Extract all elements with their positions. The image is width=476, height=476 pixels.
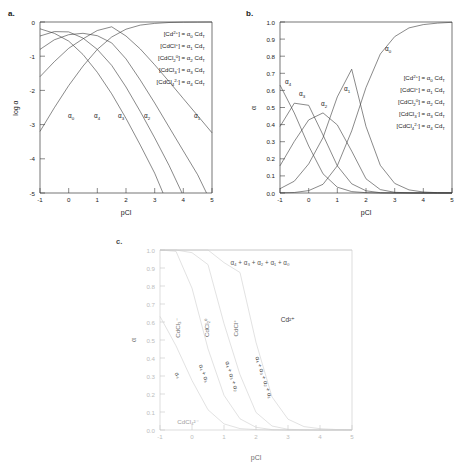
- panel-c-ytick-10: 1.0: [146, 247, 155, 254]
- panel-c-yaxis-label: α: [130, 338, 137, 342]
- panel-c-ytick-2: 0.2: [146, 391, 155, 398]
- panel-b-xtick-6: 5: [450, 196, 454, 203]
- panel-a-x-ticks: -1 0 1 2 3 4 5: [37, 188, 214, 203]
- panel-b-ytick-2: 0.2: [266, 155, 275, 162]
- panel-b-ytick-4: 0.4: [266, 121, 275, 128]
- panel-a-log-alpha-diagram: a. -1 0 1 2 3 4 5: [0, 0, 238, 238]
- panel-c-cumlabel-1: α₄ + α₃: [198, 364, 210, 384]
- panel-c-xtick-4: 3: [286, 433, 290, 440]
- panel-b-ytick-5: 0.5: [266, 104, 275, 111]
- panel-a-plot: a. -1 0 1 2 3 4 5: [0, 0, 238, 238]
- panel-a-xtick-1: 0: [67, 196, 71, 203]
- panel-b-xtick-4: 3: [393, 196, 397, 203]
- panel-c-region-label-cdcl1: CdCl⁺: [232, 320, 239, 337]
- panel-b-legend-row-1: [CdCl+] = α1 CdT: [400, 86, 445, 95]
- panel-b-ytick-9: 0.9: [266, 36, 275, 43]
- panel-b-xtick-5: 4: [422, 196, 426, 203]
- panel-c-letter: c.: [116, 237, 122, 246]
- panel-b-ytick-1: 0.1: [266, 172, 275, 179]
- panel-c-curve-alpha4: [160, 316, 352, 430]
- panel-a-legend-row-3: [CdCl3-] = α3 CdT: [159, 66, 205, 75]
- panel-b-legend-row-2: [CdCl20] = α2 CdT: [398, 98, 445, 107]
- panel-c-xtick-5: 4: [318, 433, 322, 440]
- panel-c-curve-sum-4321: [160, 250, 352, 430]
- panel-a-label-alpha4: α4: [94, 112, 101, 121]
- panel-c-axes: [160, 250, 352, 430]
- panel-a-legend-row-1: [CdCl+] = α1 CdT: [160, 42, 205, 51]
- panel-b-xtick-2: 1: [336, 196, 340, 203]
- panel-b-label-alpha4: α4: [285, 78, 292, 87]
- panel-b-ytick-10: 1.0: [266, 19, 275, 26]
- panel-b-xtick-3: 2: [364, 196, 368, 203]
- panel-b-label-alpha0: α0: [385, 45, 392, 54]
- panel-b-y-ticks: 0.0 0.1 0.2 0.3 0.4 0.5 0.6 0.7 0.8 0.9 …: [266, 19, 285, 197]
- panel-c-region-label-cdcl2: CdCl₂⁰: [203, 318, 210, 337]
- panel-a-curve-labels: α0 α4 α3 α2 α1: [68, 112, 201, 121]
- panel-c-xtick-1: 0: [190, 433, 194, 440]
- panel-b-ytick-8: 0.8: [266, 53, 275, 60]
- panel-b-label-alpha2: α2: [321, 100, 328, 109]
- panel-c-xtick-0: -1: [157, 433, 163, 440]
- panel-a-xtick-5: 4: [182, 196, 186, 203]
- panel-a-xaxis-label: pCl: [121, 209, 132, 217]
- panel-c-top-sum-label: α₄ + α₃ + α₂ + α₁ + α₀: [230, 259, 290, 266]
- panel-a-label-alpha1: α1: [194, 112, 201, 121]
- panel-a-xtick-2: 1: [96, 196, 100, 203]
- panel-b-xtick-0: -1: [277, 196, 283, 203]
- panel-b-curve-labels: α4 α3 α2 α1 α0: [285, 45, 392, 109]
- panel-a-ytick-5: -5: [29, 190, 35, 197]
- panel-a-legend-row-2: [CdCl20] = α2 CdT: [158, 54, 205, 63]
- panel-c-curve-sum-432: [160, 250, 352, 430]
- panel-a-legend-row-0: [Cd2+] = α0 CdT: [164, 30, 206, 39]
- panel-b-curves: [280, 22, 452, 193]
- panel-b-letter: b.: [246, 9, 253, 18]
- panel-c-plot: c. -1 0 1 2 3 4 5: [110, 232, 366, 476]
- panel-b-ytick-7: 0.7: [266, 70, 275, 77]
- panel-c-xtick-6: 5: [350, 433, 354, 440]
- panel-a-ytick-1: -1: [29, 53, 35, 60]
- panel-c-xtick-2: 1: [222, 433, 226, 440]
- panel-c-region-label-cd2plus: Cd²⁺: [281, 316, 296, 323]
- panel-b-x-ticks: -1 0 1 2 3 4 5: [277, 188, 454, 203]
- panel-c-y-ticks: 0.0 0.1 0.2 0.3 0.4 0.5 0.6 0.7 0.8 0.9 …: [146, 247, 165, 434]
- panel-b-ytick-6: 0.6: [266, 87, 275, 94]
- panel-c-ytick-3: 0.3: [146, 373, 155, 380]
- panel-a-label-alpha3: α3: [118, 112, 125, 121]
- panel-a-y-ticks: 0 -1 -2 -3 -4 -5: [29, 19, 45, 197]
- panel-c-ytick-4: 0.4: [146, 355, 155, 362]
- panel-c-cumulative-alpha-diagram: c. -1 0 1 2 3 4 5: [110, 232, 366, 476]
- panel-a-ytick-2: -2: [29, 87, 35, 94]
- panel-a-xtick-6: 5: [210, 196, 214, 203]
- panel-c-cumlabel-2: α₄ + α₃ + α₂: [224, 361, 240, 393]
- panel-a-ytick-3: -3: [29, 121, 35, 128]
- panel-b-ytick-0: 0.0: [266, 190, 275, 197]
- panel-c-ytick-9: 0.9: [146, 265, 155, 272]
- panel-a-label-alpha0: α0: [68, 112, 75, 121]
- panel-c-ytick-5: 0.5: [146, 337, 155, 344]
- panel-c-cumlabel-3: α₄ + α₃ + α₂ + α₁: [254, 356, 273, 399]
- panel-b-legend: [Cd2+] = α0 CdT [CdCl+] = α1 CdT [CdCl20…: [397, 74, 446, 131]
- panel-a-curve-alpha0: [40, 22, 212, 131]
- panel-c-ytick-8: 0.8: [146, 283, 155, 290]
- panel-c-curve-sum-43: [160, 250, 352, 430]
- panel-a-yaxis-label: log α: [12, 100, 20, 115]
- panel-b-label-alpha1: α1: [344, 85, 351, 94]
- panel-b-ytick-3: 0.3: [266, 138, 275, 145]
- panel-b-label-alpha3: α3: [299, 90, 306, 99]
- panel-c-cumlabel-0: α₄: [174, 371, 182, 380]
- panel-c-region-label-cdcl4: CdCl₄²⁻: [177, 418, 198, 425]
- panel-c-ytick-6: 0.6: [146, 319, 155, 326]
- panel-b-xtick-1: 0: [307, 196, 311, 203]
- panel-a-xtick-3: 2: [124, 196, 128, 203]
- panel-a-ytick-0: 0: [32, 19, 36, 26]
- panel-c-xtick-3: 2: [254, 433, 258, 440]
- panel-a-letter: a.: [8, 9, 15, 18]
- panel-a-legend-row-4: [CdCl42-] = α4 CdT: [157, 78, 206, 87]
- panel-c-curves: [160, 250, 352, 430]
- panel-b-legend-row-0: [Cd2+] = α0 CdT: [404, 74, 446, 83]
- panel-a-xtick-0: -1: [37, 196, 43, 203]
- panel-b-legend-row-3: [CdCl3-] = α3 CdT: [399, 110, 445, 119]
- panel-c-xaxis-label: pCl: [251, 454, 262, 462]
- panel-a-legend: [Cd2+] = α0 CdT [CdCl+] = α1 CdT [CdCl20…: [157, 30, 206, 87]
- panel-a-xtick-4: 3: [153, 196, 157, 203]
